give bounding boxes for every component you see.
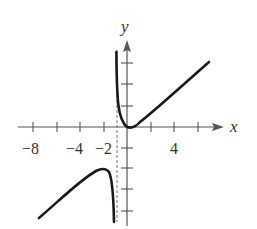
function-graph: −8 −4 −2 4 x y bbox=[0, 0, 257, 229]
y-axis-label: y bbox=[119, 17, 129, 36]
curve-left-branch bbox=[39, 169, 114, 222]
x-axis-label: x bbox=[229, 117, 238, 136]
x-tick-label-neg8: −8 bbox=[22, 140, 39, 157]
x-tick-label-neg4: −4 bbox=[66, 140, 83, 157]
x-tick-label-4: 4 bbox=[170, 140, 178, 157]
x-tick-label-neg2: −2 bbox=[95, 140, 112, 157]
